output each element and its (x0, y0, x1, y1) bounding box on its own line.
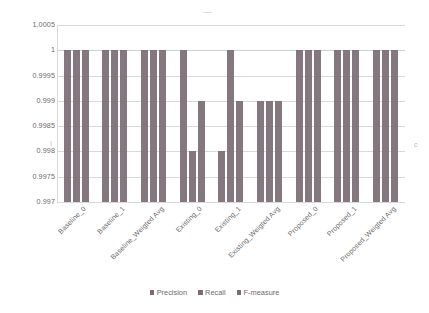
bar (275, 101, 282, 202)
scan-artifact-top-dash (203, 12, 212, 13)
y-axis-tick-label: 0.9975 (3, 173, 55, 181)
x-axis-category-label: Baseline_0 (57, 205, 88, 236)
legend-swatch-icon (198, 290, 203, 295)
bar (73, 50, 80, 202)
legend-swatch-icon (150, 290, 155, 295)
legend-label: Recall (205, 288, 226, 297)
bar (150, 50, 157, 202)
scan-artifact-right-mark: c (414, 141, 418, 148)
bar (120, 50, 127, 202)
y-axis-tick-label: 1 (3, 46, 55, 54)
bar (159, 50, 166, 202)
y-axis-tick-label: 1.0005 (3, 21, 55, 29)
legend-swatch-icon (237, 290, 242, 295)
bar (352, 50, 359, 202)
bar (82, 50, 89, 202)
bar-group (366, 25, 405, 202)
legend-item[interactable]: F-measure (237, 288, 280, 297)
bar (257, 101, 264, 202)
x-axis-category-labels: Baseline_0Baseline_1Baseline_Weigted Avg… (57, 203, 405, 288)
bar (334, 50, 341, 202)
bar (189, 151, 196, 202)
bar-group (96, 25, 135, 202)
legend-item[interactable]: Precision (150, 288, 187, 297)
bar (102, 50, 109, 202)
legend-item[interactable]: Recall (198, 288, 226, 297)
y-axis-tick-label: 0.9995 (3, 72, 55, 80)
x-axis-category-label: Proposed_0 (287, 205, 320, 238)
bar (111, 50, 118, 202)
bar (266, 101, 273, 202)
bar-group (212, 25, 251, 202)
bar (180, 50, 187, 202)
plot-area (57, 25, 405, 202)
bar (391, 50, 398, 202)
y-axis-tick-label: 0.9985 (3, 122, 55, 130)
chart-legend: PrecisionRecallF-measure (0, 288, 429, 297)
bar-chart: 1.000510.99950.9990.99850.9980.99750.997… (0, 0, 429, 313)
bar (296, 50, 303, 202)
y-axis-tick-label: 0.997 (3, 198, 55, 206)
x-axis-category-label: Existing_0 (175, 205, 204, 234)
bar-group (57, 25, 96, 202)
y-axis-tick-label: 0.999 (3, 97, 55, 105)
bar (198, 101, 205, 202)
x-axis-category-label: Proposed_1 (326, 205, 359, 238)
bar (64, 50, 71, 202)
y-axis-ticks: 1.000510.99950.9990.99850.9980.99750.997 (0, 25, 55, 202)
bar (141, 50, 148, 202)
bar (227, 50, 234, 202)
legend-label: Precision (157, 288, 187, 297)
y-axis-tick-label: 0.998 (3, 147, 55, 155)
bar-groups (57, 25, 405, 202)
legend-label: F-measure (244, 288, 280, 297)
bar-group (328, 25, 367, 202)
bar (343, 50, 350, 202)
bar (314, 50, 321, 202)
x-axis-category-label: Baseline_1 (96, 205, 127, 236)
bar (236, 101, 243, 202)
bar (305, 50, 312, 202)
bar (218, 151, 225, 202)
bar-group (134, 25, 173, 202)
x-axis-category-label: Existing_1 (213, 205, 242, 234)
bar (373, 50, 380, 202)
bar (382, 50, 389, 202)
bar-group (250, 25, 289, 202)
bar-group (289, 25, 328, 202)
bar-group (173, 25, 212, 202)
